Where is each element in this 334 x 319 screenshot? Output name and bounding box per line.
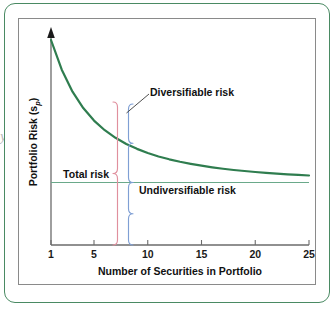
x-axis-tick-label: 10 — [142, 248, 154, 260]
x-axis-tick-label: 1 — [48, 248, 54, 260]
portfolio-risk-curve — [51, 40, 309, 176]
x-axis-tick-labels: 1510152025 — [48, 248, 315, 260]
diversifiable-risk-leader-line — [127, 94, 150, 113]
y-axis-arrow-icon — [47, 27, 55, 38]
diversifiable-risk-label: Diversifiable risk — [150, 86, 234, 98]
y-axis-title: Portfolio Risk (sp) — [27, 98, 42, 187]
x-axis-tick-label: 15 — [196, 248, 208, 260]
x-axis-tick-label: 25 — [303, 248, 315, 260]
figure-root: y 1510152025 Diversifiable risk — [0, 0, 334, 319]
x-axis-ticks — [51, 240, 309, 245]
axes-group — [47, 27, 309, 245]
y-axis-title-group: Portfolio Risk (sp) — [27, 98, 42, 187]
x-axis-tick-label: 5 — [91, 248, 97, 260]
total-risk-brace — [113, 102, 118, 245]
total-risk-label: Total risk — [63, 168, 109, 180]
undiversifiable-risk-brace — [129, 182, 134, 245]
diversifiable-risk-brace — [129, 104, 134, 182]
x-axis-title: Number of Securities in Portfolio — [98, 265, 262, 277]
x-axis-tick-label: 20 — [249, 248, 261, 260]
undiversifiable-risk-label: Undiversifiable risk — [139, 184, 236, 196]
portfolio-risk-chart: 1510152025 Diversifiable risk Total risk… — [0, 0, 334, 319]
